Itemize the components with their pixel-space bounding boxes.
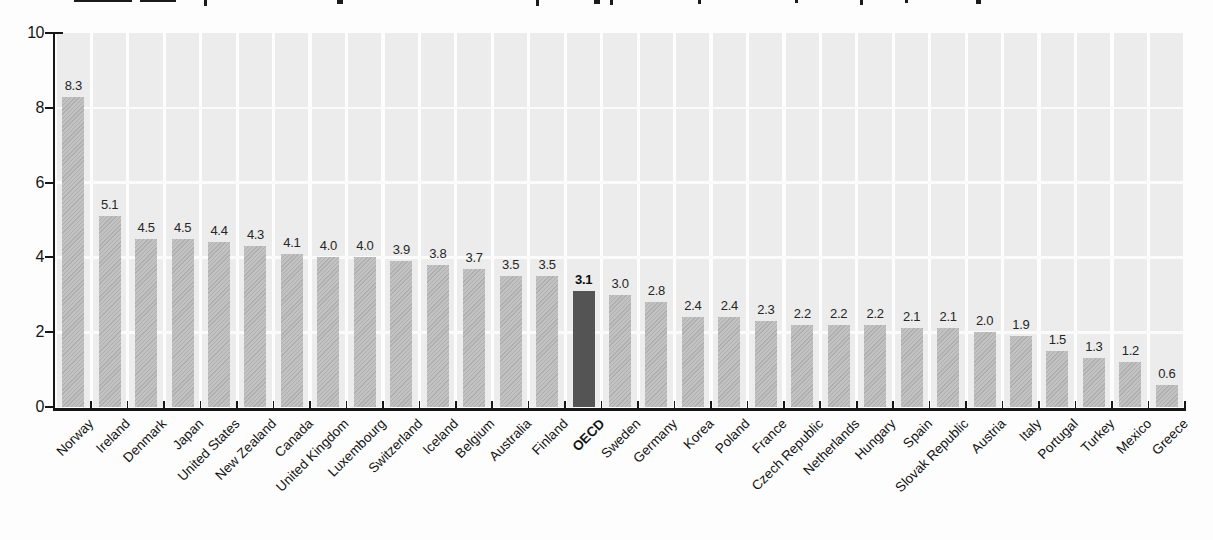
x-tick-30 (1148, 401, 1150, 408)
x-tick-9 (382, 401, 384, 408)
x-tick-15 (601, 401, 603, 408)
bar-norway (62, 97, 84, 407)
bar-netherlands (828, 325, 850, 407)
x-label-turkey: Turkey (1078, 416, 1117, 455)
y-tick-0 (45, 406, 53, 408)
x-axis-line (53, 408, 1187, 411)
bar-poland (718, 317, 740, 407)
y-tick-label-8: 8 (10, 99, 44, 117)
x-tick-24 (929, 401, 931, 408)
x-tick-18 (710, 401, 712, 408)
x-label-italy: Italy (1016, 416, 1044, 444)
x-tick-28 (1075, 401, 1077, 408)
bar-mexico (1119, 362, 1141, 407)
y-tick-label-6: 6 (10, 174, 44, 192)
bar-luxembourg (354, 257, 376, 407)
y-tick-8 (45, 107, 53, 109)
bar-turkey (1083, 358, 1105, 407)
cropped-title-fragment (860, 0, 863, 5)
bar-czech-republic (791, 325, 813, 407)
x-tick-7 (309, 401, 311, 408)
cropped-title-fragment (976, 0, 981, 4)
x-label-norway: Norway (54, 416, 97, 459)
y-tick-label-2: 2 (10, 323, 44, 341)
x-tick-6 (273, 401, 275, 408)
y-tick-label-0: 0 (10, 398, 44, 416)
value-label-norway: 8.3 (48, 78, 98, 93)
bar-iceland (427, 265, 449, 407)
gridline-y-6 (55, 181, 1185, 184)
y-axis-top-tick (55, 32, 63, 34)
cropped-title-fragment (610, 0, 613, 5)
bar-oecd (573, 291, 595, 407)
bar-new-zealand (244, 246, 266, 407)
x-tick-13 (528, 401, 530, 408)
bar-greece (1156, 385, 1178, 407)
cropped-title-fragment (204, 0, 207, 6)
cropped-title-fragment (795, 0, 798, 3)
x-tick-5 (236, 401, 238, 408)
value-label-ireland: 5.1 (85, 197, 135, 212)
cropped-title-fragment (905, 0, 908, 3)
cropped-title-fragment (698, 0, 701, 4)
x-tick-17 (674, 401, 676, 408)
x-tick-25 (965, 401, 967, 408)
y-tick-6 (45, 182, 53, 184)
bar-australia (500, 276, 522, 407)
x-label-greece: Greece (1148, 416, 1190, 458)
y-tick-label-4: 4 (10, 248, 44, 266)
bar-austria (974, 332, 996, 407)
gridline-y-8 (55, 107, 1185, 110)
bar-sweden (609, 295, 631, 407)
x-tick-27 (1038, 401, 1040, 408)
bar-germany (645, 302, 667, 407)
bar-portugal (1046, 351, 1068, 407)
x-tick-12 (491, 401, 493, 408)
x-label-mexico: Mexico (1113, 416, 1154, 457)
cropped-title-fragment (536, 0, 539, 6)
x-label-poland: Poland (713, 416, 753, 456)
y-axis-line (53, 32, 56, 411)
value-label-finland: 3.5 (522, 257, 572, 272)
bar-finland (536, 276, 558, 407)
cropped-title-fragment (140, 0, 176, 2)
cropped-title-fragment (337, 0, 343, 4)
x-tick-4 (200, 401, 202, 408)
x-tick-14 (564, 401, 566, 408)
cropped-title-fragment (74, 0, 132, 2)
x-tick-3 (163, 401, 165, 408)
bar-italy (1010, 336, 1032, 407)
x-label-korea: Korea (680, 416, 716, 452)
bar-france (755, 321, 777, 407)
x-tick-19 (747, 401, 749, 408)
x-tick-8 (346, 401, 348, 408)
x-tick-16 (637, 401, 639, 408)
x-tick-10 (419, 401, 421, 408)
y-tick-label-10: 10 (10, 24, 44, 42)
x-tick-26 (1002, 401, 1004, 408)
bar-canada (281, 254, 303, 407)
bar-united-kingdom (317, 257, 339, 407)
bar-japan (172, 239, 194, 407)
value-label-italy: 1.9 (996, 317, 1046, 332)
x-tick-23 (892, 401, 894, 408)
bar-chart-figure: 8.35.14.54.54.44.34.14.04.03.93.83.73.53… (0, 0, 1213, 540)
cropped-title-fragment (594, 0, 600, 4)
bar-spain (901, 328, 923, 407)
value-label-mexico: 1.2 (1105, 343, 1155, 358)
x-tick-20 (783, 401, 785, 408)
value-label-greece: 0.6 (1142, 366, 1192, 381)
bar-ireland (99, 216, 121, 407)
bar-switzerland (390, 261, 412, 407)
x-tick-22 (856, 401, 858, 408)
bar-denmark (135, 239, 157, 407)
x-tick-31 (1184, 401, 1186, 408)
y-tick-2 (45, 331, 53, 333)
bar-united-states (208, 242, 230, 407)
x-tick-21 (819, 401, 821, 408)
x-tick-29 (1111, 401, 1113, 408)
x-tick-2 (127, 401, 129, 408)
y-tick-10 (45, 32, 53, 34)
x-label-austria: Austria (968, 416, 1008, 456)
bar-hungary (864, 325, 886, 407)
